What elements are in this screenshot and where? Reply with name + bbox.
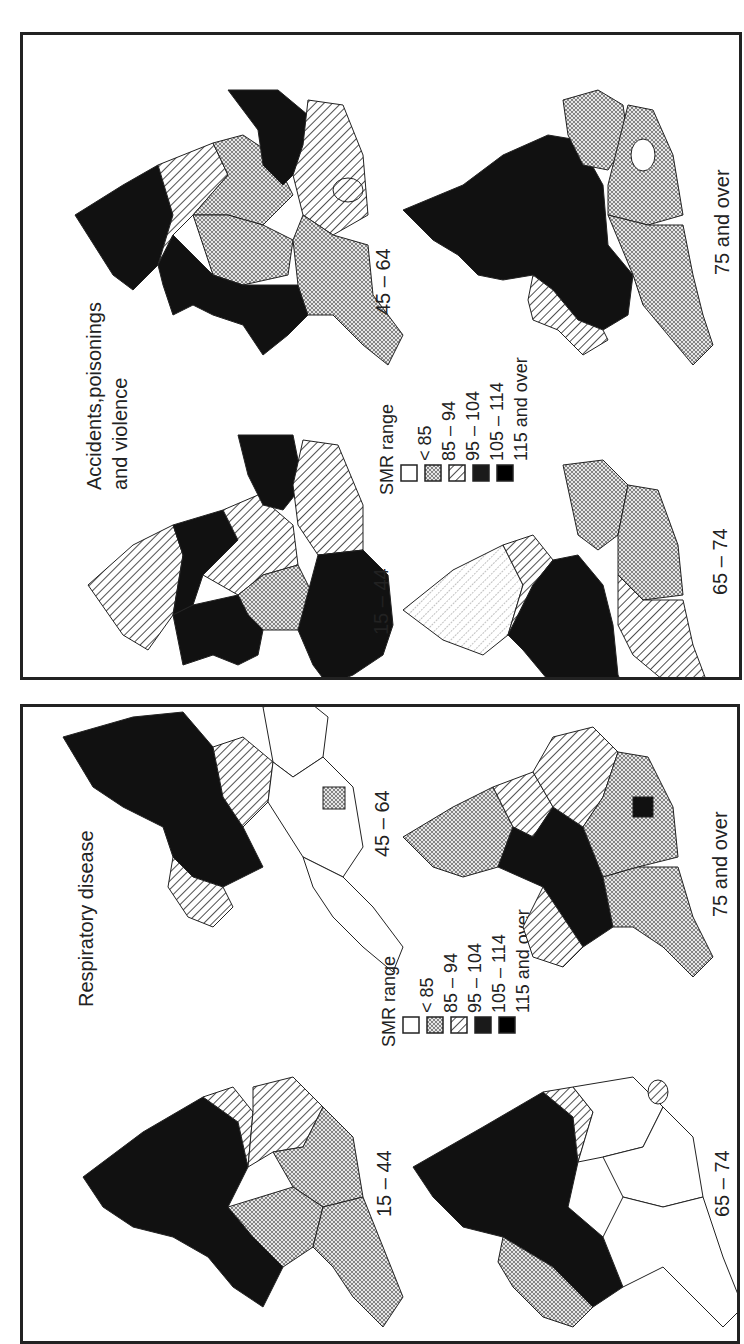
svg-text:< 85: < 85 — [417, 977, 437, 1013]
svg-text:95 – 104: 95 – 104 — [465, 943, 485, 1013]
map-65-74: 65 – 74 — [413, 1077, 737, 1327]
age-label: 75 and over — [709, 811, 731, 917]
svg-text:95 – 104: 95 – 104 — [463, 391, 483, 461]
map-65-74: 65 – 74 — [403, 460, 731, 677]
panel-title: Respiratory disease — [75, 830, 97, 1007]
age-label: 75 and over — [711, 169, 733, 275]
svg-text:85 – 94: 85 – 94 — [441, 953, 461, 1013]
panel-title: Accidents,poisonings — [83, 302, 105, 490]
age-label: 45 – 64 — [372, 248, 394, 315]
age-label: 45 – 64 — [371, 790, 393, 857]
age-label: 15 – 44 — [370, 568, 392, 635]
map-15-44: 15 – 44 — [83, 1077, 403, 1327]
legend: SMR range < 85 85 – 94 95 – 104 105 – 11… — [379, 909, 533, 1047]
panel-subtitle: and violence — [109, 378, 131, 490]
age-label: 65 – 74 — [711, 1150, 733, 1217]
map-45-64: 45 – 64 — [63, 707, 403, 972]
map-75-over: 75 and over — [403, 727, 731, 977]
legend-title: SMR range — [377, 404, 397, 495]
map-75-over: 75 and over — [403, 90, 733, 365]
svg-text:85 – 94: 85 – 94 — [439, 401, 459, 461]
map-15-44: 15 – 44 — [88, 435, 393, 677]
svg-text:< 85: < 85 — [415, 425, 435, 461]
panel-respiratory: Respiratory disease 45 – 64 15 – 44 SMR … — [20, 704, 740, 1344]
svg-text:105 – 114: 105 – 114 — [487, 382, 507, 461]
panel-accidents: Accidents,poisonings and violence 45 – 6… — [20, 32, 742, 680]
map-45-64: 45 – 64 — [75, 90, 403, 365]
legend: SMR range < 85 85 – 94 95 – 104 105 – 11… — [377, 357, 531, 495]
panel-accidents-svg: Accidents,poisonings and violence 45 – 6… — [23, 35, 739, 677]
age-label: 15 – 44 — [373, 1150, 395, 1217]
panel-respiratory-svg: Respiratory disease 45 – 64 15 – 44 SMR … — [23, 707, 737, 1341]
svg-text:115 and over: 115 and over — [511, 357, 531, 461]
svg-text:105 – 114: 105 – 114 — [489, 934, 509, 1013]
age-label: 65 – 74 — [709, 528, 731, 595]
legend-title: SMR range — [379, 956, 399, 1047]
